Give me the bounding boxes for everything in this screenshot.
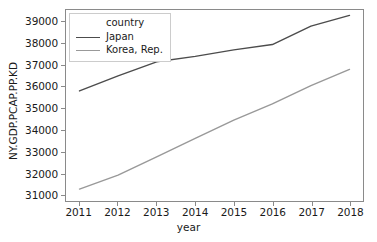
- x-axis-tick-mark: [350, 202, 351, 206]
- y-axis-tick-label: 39000: [25, 15, 58, 27]
- x-axis-tick-mark: [117, 202, 118, 206]
- chart-figure: NY.GDP.PCAP.PP.KD 3100032000330003400035…: [0, 0, 377, 242]
- x-axis-tick-label: 2012: [104, 206, 130, 218]
- y-axis-tick-mark: [61, 43, 65, 44]
- y-axis-tick-mark: [61, 174, 65, 175]
- legend-swatch-icon: [76, 50, 100, 51]
- legend-entries: JapanKorea, Rep.: [76, 31, 163, 56]
- x-axis-label: year: [0, 221, 377, 233]
- legend-swatch-icon: [76, 37, 100, 38]
- y-axis-tick-mark: [61, 152, 65, 153]
- y-axis-tick-mark: [61, 130, 65, 131]
- x-axis-tick-mark: [79, 202, 80, 206]
- legend-title: country: [76, 17, 163, 29]
- y-axis-tick-label: 32000: [25, 168, 58, 180]
- x-axis-tick-mark: [312, 202, 313, 206]
- x-axis-tick-mark: [195, 202, 196, 206]
- x-axis-tick-label: 2011: [65, 206, 91, 218]
- x-axis-tick-label: 2014: [182, 206, 208, 218]
- x-axis-tick-label: 2017: [298, 206, 324, 218]
- legend-label: Japan: [106, 31, 134, 43]
- y-axis-tick-labels: 3100032000330003400035000360003700038000…: [0, 0, 58, 242]
- x-axis-tick-mark: [234, 202, 235, 206]
- x-axis-tick-mark: [156, 202, 157, 206]
- y-axis-tick-mark: [61, 86, 65, 87]
- y-axis-tick-label: 38000: [25, 37, 58, 49]
- y-axis-tick-label: 31000: [25, 189, 58, 201]
- x-axis-tick-mark: [273, 202, 274, 206]
- legend-item: Korea, Rep.: [76, 44, 163, 56]
- x-axis-tick-label: 2013: [143, 206, 169, 218]
- x-axis-tick-label: 2018: [337, 206, 363, 218]
- y-axis-tick-label: 37000: [25, 59, 58, 71]
- y-axis-tick-label: 33000: [25, 146, 58, 158]
- y-axis-tick-mark: [61, 195, 65, 196]
- legend: country JapanKorea, Rep.: [69, 13, 171, 62]
- legend-label: Korea, Rep.: [106, 44, 163, 56]
- y-axis-tick-mark: [61, 21, 65, 22]
- legend-item: Japan: [76, 31, 163, 43]
- y-axis-tick-mark: [61, 108, 65, 109]
- x-axis-tick-label: 2016: [260, 206, 286, 218]
- line-series: [79, 69, 349, 189]
- y-axis-tick-label: 36000: [25, 80, 58, 92]
- y-axis-tick-label: 35000: [25, 102, 58, 114]
- x-axis-tick-label: 2015: [221, 206, 247, 218]
- y-axis-tick-mark: [61, 65, 65, 66]
- y-axis-tick-label: 34000: [25, 124, 58, 136]
